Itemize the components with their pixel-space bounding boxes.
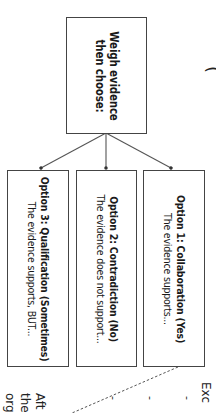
option-box-collaboration: Option 1: Collaboration (Yes) The eviden…: [143, 170, 205, 367]
option-1-title: Option 1: Collaboration (Yes): [174, 194, 187, 342]
cut-text-the: the: [18, 393, 32, 413]
option-1-desc: The evidence supports...: [161, 194, 174, 342]
arrow-to-option-1: [106, 133, 171, 168]
decision-box-weigh-evidence: Weigh evidence then choose:: [66, 17, 147, 134]
option-box-contradiction: Option 2: Contradiction (No) The evidenc…: [76, 170, 137, 367]
root-line-1: Weigh evidence: [107, 31, 121, 120]
bullet-1: -: [181, 396, 194, 400]
root-line-2: then choose:: [92, 31, 106, 120]
dotted-leader-line: [72, 367, 178, 413]
option-3-title: Option 3: Qualification (Sometimes): [38, 176, 51, 361]
arrow-to-option-3: [41, 133, 106, 168]
cut-text-exc: Exc: [199, 382, 213, 403]
option-2-title: Option 2: Contradiction (No): [107, 194, 120, 343]
cut-text-aft: Aft: [33, 393, 47, 410]
bullet-2: -: [144, 396, 157, 400]
option-3-desc: The evidence supports, BUT...: [25, 176, 38, 361]
cut-text-org: org: [3, 393, 17, 413]
edge-glyph: (: [203, 66, 216, 73]
bullet-3: -: [107, 396, 120, 400]
option-2-desc: The evidence does not support...: [93, 194, 106, 343]
option-box-qualification: Option 3: Qualification (Sometimes) The …: [7, 170, 69, 367]
